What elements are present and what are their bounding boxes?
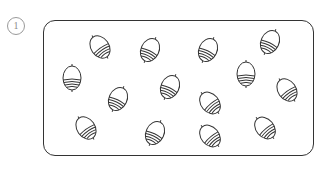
acorn-icon <box>272 73 303 106</box>
acorn-icon <box>194 119 226 152</box>
acorn-group <box>0 0 323 172</box>
acorn-icon <box>141 117 169 150</box>
acorn-icon <box>249 111 281 144</box>
acorn-icon <box>194 86 226 119</box>
acorn-icon <box>63 64 81 92</box>
acorn-icon <box>104 83 132 116</box>
acorn-icon <box>256 26 284 59</box>
acorn-icon <box>85 30 116 63</box>
acorn-icon <box>194 34 222 67</box>
acorn-icon <box>237 60 255 88</box>
acorn-icon <box>71 111 102 144</box>
acorn-icon <box>136 34 164 67</box>
acorn-icon <box>156 71 184 104</box>
